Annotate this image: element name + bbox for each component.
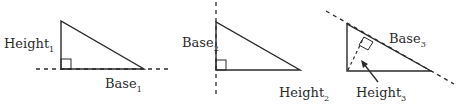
triangle-3: Base3 Height3 xyxy=(326,11,454,103)
triangle-1: Height1 Base1 xyxy=(4,21,170,94)
right-angle-marker xyxy=(216,60,226,70)
base-2-label: Base2 xyxy=(182,35,219,53)
height-3-arrow-shaft xyxy=(364,64,378,82)
triangle-base-height-diagram: Height1 Base1 Base2 Height2 Base3 Height… xyxy=(0,0,463,112)
height-3-label: Height3 xyxy=(356,85,406,103)
triangle-2-shape xyxy=(216,22,300,70)
right-angle-marker xyxy=(61,59,71,69)
triangle-1-shape xyxy=(61,21,144,69)
right-angle-marker xyxy=(359,37,373,50)
triangle-2: Base2 Height2 xyxy=(182,2,329,103)
altitude-dashed-line xyxy=(348,37,364,70)
base-1-label: Base1 xyxy=(105,76,142,94)
base-3-label: Base3 xyxy=(389,31,426,49)
height-1-label: Height1 xyxy=(4,36,54,54)
height-2-label: Height2 xyxy=(279,85,329,103)
